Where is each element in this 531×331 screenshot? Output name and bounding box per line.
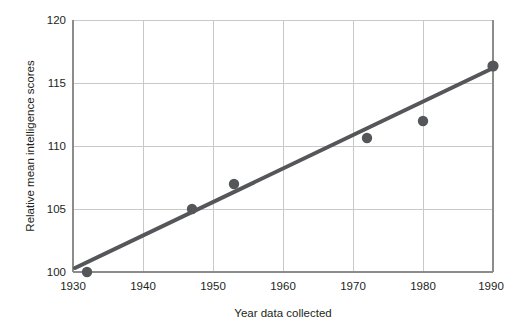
data-point-1953	[229, 179, 239, 189]
x-tick-label-1950: 1950	[200, 280, 226, 292]
x-tick-label-1930: 1930	[60, 280, 86, 292]
x-tick-label-1970: 1970	[340, 280, 366, 292]
x-tick-label-1960: 1960	[270, 280, 296, 292]
y-tick-label-120: 120	[47, 14, 66, 26]
x-axis-title: Year data collected	[234, 307, 331, 319]
y-tick-label-105: 105	[47, 203, 66, 215]
x-tick-label-1940: 1940	[130, 280, 156, 292]
data-point-1972	[362, 133, 372, 143]
data-point-1990	[487, 60, 498, 71]
scatter-chart-figure: 120 115 110 105 100 1930 1940 1950 1960 …	[0, 0, 531, 331]
y-tick-label-100: 100	[47, 266, 66, 278]
y-axis-title: Relative mean intelligence scores	[24, 60, 36, 232]
data-point-1980	[418, 116, 428, 126]
x-tick-label-1990: 1990	[478, 280, 504, 292]
y-tick-label-110: 110	[48, 140, 66, 152]
chart-canvas: 120 115 110 105 100 1930 1940 1950 1960 …	[0, 0, 531, 331]
y-tick-label-115: 115	[48, 77, 66, 89]
x-tick-label-1980: 1980	[410, 280, 436, 292]
data-point-1932	[82, 267, 92, 277]
data-point-1947	[187, 204, 197, 214]
